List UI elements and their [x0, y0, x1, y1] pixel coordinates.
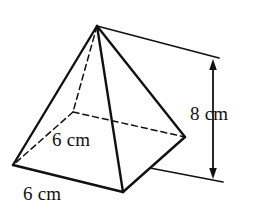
- geometry-figure: 6 cm 6 cm 8 cm: [0, 0, 255, 211]
- edge-front-to-right: [123, 137, 185, 192]
- height-arrow-head-top: [209, 59, 217, 70]
- visible-edges-group: [13, 26, 185, 192]
- hidden-edge-apex-to-back: [73, 26, 97, 112]
- height-arrow-head-bottom: [209, 168, 217, 179]
- top-extension-line: [97, 26, 219, 58]
- edge-apex-to-right: [97, 26, 185, 137]
- width-dimension-label: 6 cm: [23, 184, 61, 203]
- depth-dimension-label: 6 cm: [52, 130, 90, 149]
- hidden-edges-group: [13, 26, 185, 165]
- height-dimension-label: 8 cm: [190, 104, 228, 123]
- edge-apex-to-front: [97, 26, 123, 192]
